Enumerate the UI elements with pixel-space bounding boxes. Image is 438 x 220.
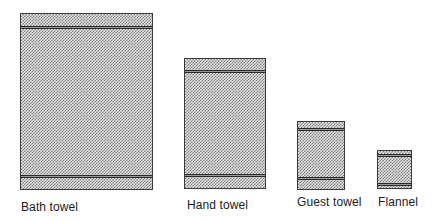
flannel-label: Flannel xyxy=(378,195,418,209)
bath-towel-shape xyxy=(20,13,153,190)
top-border-stripe xyxy=(21,26,152,29)
flannel-shape xyxy=(377,150,412,189)
hand-towel-shape xyxy=(184,58,266,189)
bottom-border-stripe xyxy=(21,175,152,178)
top-border-stripe xyxy=(378,154,411,157)
bath-towel-label: Bath towel xyxy=(21,200,78,214)
bottom-border-stripe xyxy=(185,174,265,177)
bottom-border-stripe xyxy=(298,177,344,180)
hand-towel-label: Hand towel xyxy=(187,198,248,212)
guest-towel-label: Guest towel xyxy=(297,195,361,209)
guest-towel-shape xyxy=(297,121,345,190)
top-border-stripe xyxy=(298,128,344,131)
top-border-stripe xyxy=(185,70,265,73)
bottom-border-stripe xyxy=(378,183,411,186)
